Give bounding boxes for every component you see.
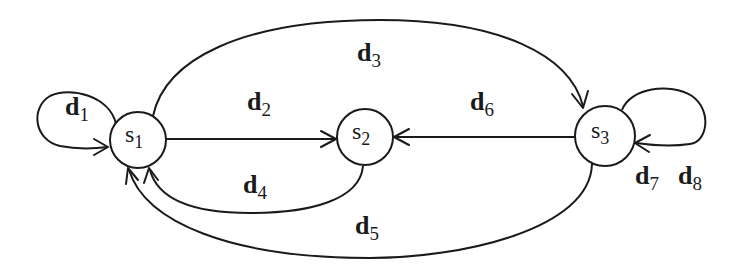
edge-label-d3: d3 bbox=[357, 38, 381, 71]
node-s2: s2 bbox=[337, 109, 393, 165]
edge-label-d2: d2 bbox=[247, 87, 271, 120]
node-label: s bbox=[352, 118, 361, 144]
edge-label-d1: d1 bbox=[65, 92, 89, 125]
node-s3: s3 bbox=[575, 106, 635, 166]
edge-d6 bbox=[394, 129, 575, 145]
edge-d2 bbox=[166, 131, 336, 147]
node-s1: s1 bbox=[110, 112, 166, 168]
edge-label-d5: d5 bbox=[355, 211, 379, 244]
edge-label-d7: d7 bbox=[635, 161, 659, 194]
edge-label-d6: d6 bbox=[470, 87, 494, 120]
node-label: s bbox=[125, 121, 134, 147]
node-label: s bbox=[591, 117, 600, 143]
edge-label-d8: d8 bbox=[678, 161, 702, 194]
state-diagram: s1 s2 s3 d1 d2 d3 d4 d5 d6 d7 d8 bbox=[0, 0, 740, 274]
edge-label-d4: d4 bbox=[243, 170, 267, 203]
